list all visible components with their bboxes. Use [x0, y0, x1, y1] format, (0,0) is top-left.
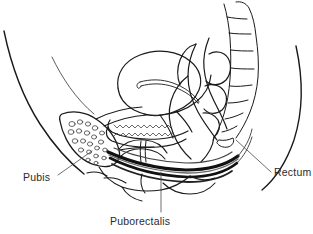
- label-rectum: Rectum: [274, 167, 311, 178]
- label-puborectalis: Puborectalis: [110, 216, 170, 227]
- anatomy-illustration: [0, 0, 313, 234]
- figure-background: [0, 0, 313, 234]
- anatomy-figure: Pubis Rectum Puborectalis: [0, 0, 313, 234]
- label-pubis: Pubis: [23, 172, 50, 183]
